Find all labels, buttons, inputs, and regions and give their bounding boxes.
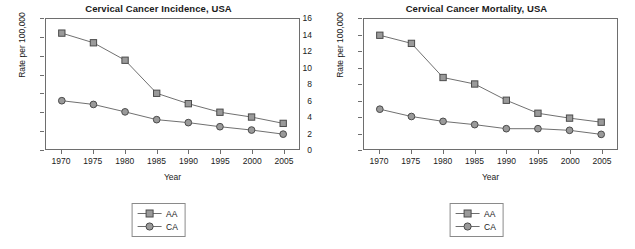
data-point-marker-ca [58,97,65,104]
y-axis-tick-label: 6 [272,96,312,105]
data-point-marker-aa [377,32,383,38]
series-canvas [46,19,299,149]
y-axis-tick-label: 14 [272,30,312,39]
data-point-marker-aa [440,74,446,80]
x-axis-tick-mark [93,150,94,154]
y-axis-tick-mark [40,75,44,76]
x-axis-tick-mark [220,150,221,154]
y-axis-tick-mark [358,84,362,85]
two-panel-line-chart-figure: Cervical Cancer Incidence, USA Rate per … [0,0,635,249]
x-axis-tick-mark [443,150,444,154]
y-axis-tick-label: 16 [272,14,312,23]
x-axis-tick-label: 2000 [561,157,580,166]
x-axis-tick-mark [61,150,62,154]
x-axis-tick-label: 1975 [83,157,102,166]
data-point-marker-aa [503,97,509,103]
y-axis-tick-mark [358,51,362,52]
x-axis-tick-label: 2005 [593,157,612,166]
chart-title: Cervical Cancer Mortality, USA [318,3,635,14]
plot-area [45,18,300,150]
legend-label-ca: CA [484,222,496,232]
legend-item-aa: AA [136,207,178,220]
x-axis-tick-mark [157,150,158,154]
x-axis-tick-label: 2005 [275,157,294,166]
x-axis-tick-label: 1995 [211,157,230,166]
circle-marker [136,221,162,232]
x-axis-tick-label: 1985 [147,157,166,166]
x-axis-tick-label: 1970 [369,157,388,166]
y-axis-tick-mark [358,18,362,19]
y-axis-tick-mark [358,134,362,135]
data-point-marker-ca [535,125,542,132]
x-axis-tick-mark [188,150,189,154]
data-point-marker-ca [408,113,415,120]
x-axis-tick-mark [538,150,539,154]
chart-title: Cervical Cancer Incidence, USA [0,3,317,14]
y-axis-tick-mark [40,131,44,132]
data-point-marker-ca [440,118,447,125]
x-axis-tick-mark [125,150,126,154]
y-axis-tick-label: 2 [272,129,312,138]
legend-item-ca: CA [454,220,496,233]
legend: AA CA [449,203,504,237]
data-point-marker-aa [598,119,604,125]
data-point-marker-ca [122,109,129,116]
x-axis-tick-mark [252,150,253,154]
y-axis-label: Rate per 100,000 [17,0,27,100]
data-point-marker-aa [217,109,223,115]
y-axis-label: Rate per 100,000 [335,0,345,100]
series-line-aa [380,35,601,122]
x-axis-tick-mark [570,150,571,154]
x-axis-tick-mark [602,150,603,154]
data-point-marker-aa [122,57,128,63]
x-axis-tick-mark [379,150,380,154]
x-axis-tick-label: 1995 [529,157,548,166]
y-axis-tick-label: 12 [272,47,312,56]
x-axis-tick-mark [475,150,476,154]
data-point-marker-ca [90,101,97,108]
y-axis-tick-mark [40,112,44,113]
y-axis-tick-mark [358,101,362,102]
x-axis-tick-label: 1980 [433,157,452,166]
square-marker [136,208,162,219]
chart-panel-incidence: Cervical Cancer Incidence, USA Rate per … [0,0,317,249]
legend: AA CA [131,203,186,237]
y-axis-tick-mark [40,37,44,38]
data-point-marker-ca [598,131,605,138]
data-point-marker-aa [185,101,191,107]
plot-area [363,18,618,150]
y-axis-tick-mark [358,150,362,151]
x-axis-label: Year [363,172,618,182]
x-axis-tick-mark [506,150,507,154]
legend-item-aa: AA [454,207,496,220]
data-point-marker-aa [248,114,254,120]
square-marker [454,208,480,219]
y-axis-tick-mark [358,117,362,118]
x-axis-tick-label: 1990 [497,157,516,166]
x-axis-tick-label: 1970 [51,157,70,166]
data-point-marker-ca [217,123,224,130]
data-point-marker-aa [59,30,65,36]
series-line-aa [62,33,283,123]
legend-label-aa: AA [166,209,177,219]
x-axis-tick-mark [411,150,412,154]
data-point-marker-aa [408,40,414,46]
chart-panel-mortality: Cervical Cancer Mortality, USA Rate per … [318,0,635,249]
x-axis-tick-label: 1980 [115,157,134,166]
y-axis-tick-mark [358,68,362,69]
data-point-marker-ca [248,127,255,134]
legend-item-ca: CA [136,220,178,233]
y-axis-tick-label: 10 [272,63,312,72]
x-axis-tick-label: 2000 [243,157,262,166]
y-axis-tick-mark [40,56,44,57]
data-point-marker-ca [471,121,478,128]
series-canvas [364,19,617,149]
data-point-marker-ca [376,106,383,113]
data-point-marker-aa [472,81,478,87]
y-axis-tick-mark [40,18,44,19]
y-axis-tick-mark [358,35,362,36]
x-axis-tick-label: 1975 [401,157,420,166]
data-point-marker-aa [90,40,96,46]
y-axis-tick-label: 8 [272,80,312,89]
y-axis-tick-label: 4 [272,113,312,122]
